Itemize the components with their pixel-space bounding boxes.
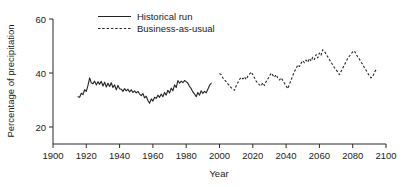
x-axis-tick-labels: 1900192019401960198020002020204020602080… [42,150,396,161]
precipitation-line-chart: 204060 190019201940196019802000202020402… [0,0,404,187]
x-tick-label-1920: 1920 [76,150,97,161]
y-tick-label-40: 40 [35,68,46,79]
x-tick-label-1900: 1900 [42,150,63,161]
chart-svg: 204060 190019201940196019802000202020402… [0,0,404,187]
x-tick-label-2080: 2080 [342,150,363,161]
y-tick-label-60: 60 [35,14,46,25]
x-tick-label-2020: 2020 [242,150,263,161]
x-tick-label-2000: 2000 [209,150,230,161]
y-tick-label-20: 20 [35,122,46,133]
legend-label-historical-run: Historical run [137,11,192,22]
x-tick-label-2040: 2040 [276,150,297,161]
y-axis-title: Percentage of precipitation [5,24,16,137]
x-tick-label-2100: 2100 [375,150,396,161]
x-tick-label-1960: 1960 [142,150,163,161]
x-axis-title: Year [209,168,228,179]
x-tick-label-1980: 1980 [176,150,197,161]
legend-label-business-as-usual: Business-as-usual [137,23,215,34]
x-tick-label-2060: 2060 [309,150,330,161]
x-tick-label-1940: 1940 [109,150,130,161]
